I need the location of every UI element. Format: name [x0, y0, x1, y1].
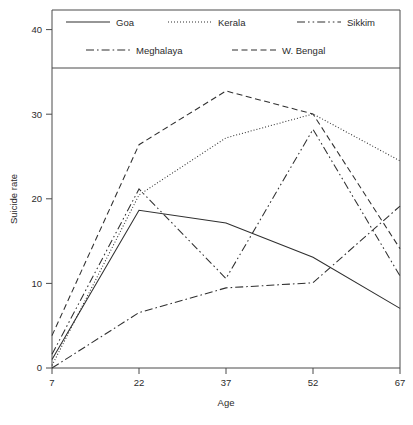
x-tick-label-7: 7 — [49, 377, 54, 388]
legend-label-sikkim: Sikkim — [347, 17, 375, 28]
y-tick-label-0: 0 — [37, 362, 42, 373]
series-line-sikkim — [52, 129, 400, 354]
series-line-meghalaya — [52, 206, 400, 368]
legend-label-goa: Goa — [116, 17, 135, 28]
y-axis-title: Suicide rate — [8, 174, 19, 224]
legend: Goa Kerala Sikkim Meghalaya W. Bengal — [66, 17, 375, 56]
plot-frame — [52, 10, 400, 368]
x-tick-label-52: 52 — [308, 377, 319, 388]
legend-label-w-bengal: W. Bengal — [282, 45, 325, 56]
series-group — [52, 91, 400, 368]
chart-container: 0 10 20 30 40 7 22 37 52 67 Age Suicide … — [0, 0, 413, 425]
y-tick-label-10: 10 — [31, 278, 42, 289]
x-tick-label-37: 37 — [221, 377, 232, 388]
series-line-w-bengal — [52, 91, 400, 336]
y-tick-label-40: 40 — [31, 24, 42, 35]
x-axis-ticks: 7 22 37 52 67 — [49, 368, 405, 388]
y-tick-label-20: 20 — [31, 193, 42, 204]
series-line-kerala — [52, 114, 400, 365]
series-line-goa — [52, 210, 400, 359]
y-tick-label-30: 30 — [31, 109, 42, 120]
x-axis-title: Age — [218, 397, 235, 408]
y-axis-ticks: 0 10 20 30 40 — [31, 24, 52, 373]
legend-label-meghalaya: Meghalaya — [136, 45, 183, 56]
x-tick-label-67: 67 — [395, 377, 406, 388]
x-tick-label-22: 22 — [134, 377, 145, 388]
legend-label-kerala: Kerala — [218, 17, 246, 28]
line-chart: 0 10 20 30 40 7 22 37 52 67 Age Suicide … — [0, 0, 413, 425]
